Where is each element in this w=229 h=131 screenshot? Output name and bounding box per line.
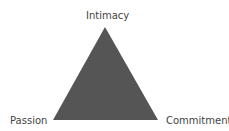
vertex-label-intimacy: Intimacy xyxy=(86,10,129,22)
vertex-label-commitment: Commitment xyxy=(166,115,229,127)
love-triangle xyxy=(53,27,158,120)
vertex-label-passion: Passion xyxy=(10,115,47,127)
